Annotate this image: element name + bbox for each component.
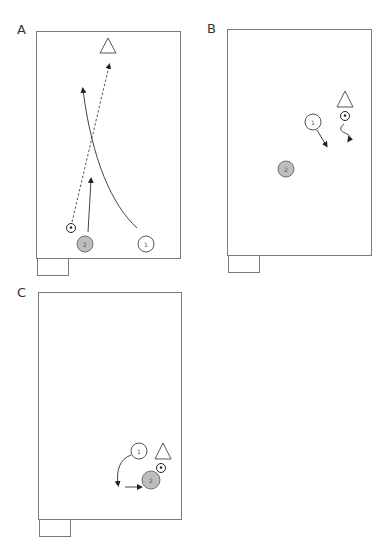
field-frame-b xyxy=(228,30,372,256)
goal-box-a xyxy=(38,259,69,276)
goal-box-b xyxy=(229,256,260,273)
cone-icon xyxy=(155,443,171,459)
player-1-marker: 1 xyxy=(305,114,321,130)
panel-label-b: B xyxy=(207,21,216,36)
player-number: 1 xyxy=(137,448,141,455)
ball-icon xyxy=(341,112,350,121)
panel-a: A 2 1 xyxy=(17,22,181,276)
pass-arrow-dashed xyxy=(72,66,109,222)
goal-box-c xyxy=(40,520,71,537)
ball-icon xyxy=(67,224,76,233)
ball-icon xyxy=(157,464,166,473)
dribble-arrow-wavy xyxy=(341,124,350,140)
panel-label-a: A xyxy=(17,22,26,37)
panel-b: B 1 2 xyxy=(207,21,372,273)
player-number: 2 xyxy=(83,241,87,248)
player-2-marker: 2 xyxy=(142,471,160,489)
cone-icon xyxy=(337,91,353,107)
player-1-marker: 1 xyxy=(131,443,147,459)
panel-label-c: C xyxy=(17,285,26,300)
player-number: 2 xyxy=(149,477,153,484)
field-frame-a xyxy=(37,32,181,259)
run-arrow-curved-player-1 xyxy=(118,455,131,484)
run-arrow-player-2 xyxy=(88,180,91,232)
player-number: 2 xyxy=(284,166,288,173)
cone-icon xyxy=(100,38,116,53)
player-2-marker: 2 xyxy=(278,161,294,177)
player-number: 1 xyxy=(144,241,148,248)
run-arrow-curved-player-1 xyxy=(83,90,137,228)
run-arrow-player-1 xyxy=(317,130,326,145)
panel-c: C 1 2 xyxy=(17,285,182,537)
field-frame-c xyxy=(39,293,182,520)
player-number: 1 xyxy=(311,119,315,126)
player-1-marker: 1 xyxy=(138,236,154,252)
drill-diagram: A 2 1 B xyxy=(0,0,387,555)
player-2-marker: 2 xyxy=(77,236,93,252)
